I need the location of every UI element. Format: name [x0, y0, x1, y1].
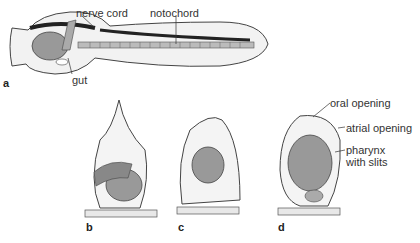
adult-tunicate-drawing — [278, 116, 340, 216]
larva-drawing — [10, 12, 268, 74]
label-pharynx-slits: with slits — [346, 156, 388, 168]
label-gut: gut — [72, 74, 87, 86]
label-nerve-cord: nerve cord — [76, 7, 128, 19]
panel-label-d: d — [278, 221, 285, 233]
label-notochord: notochord — [150, 7, 199, 19]
juvenile-drawing — [177, 118, 240, 214]
panel-label-c: c — [178, 221, 184, 233]
settling-larva-drawing — [85, 100, 157, 217]
panel-label-a: a — [3, 77, 9, 89]
label-atrial-opening: atrial opening — [346, 122, 412, 134]
label-pharynx: pharynx — [346, 144, 385, 156]
label-oral-opening: oral opening — [330, 97, 391, 109]
panel-label-b: b — [86, 221, 93, 233]
